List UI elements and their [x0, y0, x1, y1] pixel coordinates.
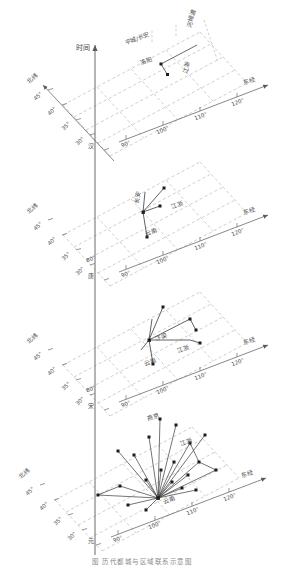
- figure-container: 时间 北纬 北纬 北纬 北纬 东经 东经 东经 东经 45° 40° 35° 3…: [0, 0, 284, 578]
- era-label-yuan: 元: [88, 536, 94, 545]
- panel-4-grid: [55, 427, 239, 551]
- time-axis-label: 时间: [76, 42, 90, 52]
- panel-3-axes: [119, 345, 268, 402]
- panel-1-label-leaders: [152, 25, 176, 42]
- panel-1-axes: [43, 85, 268, 161]
- diagram-svg: [0, 0, 284, 578]
- era-label-han: 汉: [88, 141, 94, 150]
- era-label-song: 宋: [88, 401, 94, 410]
- figure-caption: 图 历代都城与区域联系示意图: [0, 556, 284, 566]
- panel-4-axes: [111, 478, 266, 537]
- panel-1-grid: [63, 32, 247, 156]
- panel-3-grid: [63, 292, 247, 416]
- panel-2-grid: [63, 162, 247, 286]
- panel-4-markers: [97, 418, 218, 512]
- panel-1-links: [161, 45, 197, 74]
- panel-2-axes: [119, 215, 268, 272]
- era-label-tang: 唐: [88, 271, 94, 280]
- panel-1-leader-lines: [204, 20, 218, 62]
